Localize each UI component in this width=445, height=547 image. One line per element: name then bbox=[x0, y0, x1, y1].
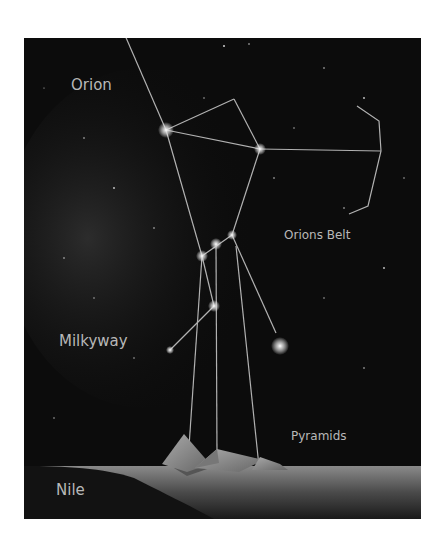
label-nile: Nile bbox=[56, 481, 85, 499]
diagram-frame: Orion Orions Belt Milkyway Pyramids Nile bbox=[24, 38, 421, 519]
label-orion: Orion bbox=[71, 76, 112, 94]
pyramids-group bbox=[162, 434, 288, 476]
label-orions-belt: Orions Belt bbox=[284, 228, 350, 242]
orion-pyramids-illustration bbox=[24, 38, 421, 519]
label-pyramids: Pyramids bbox=[291, 429, 347, 443]
label-milkyway: Milkyway bbox=[59, 332, 128, 350]
